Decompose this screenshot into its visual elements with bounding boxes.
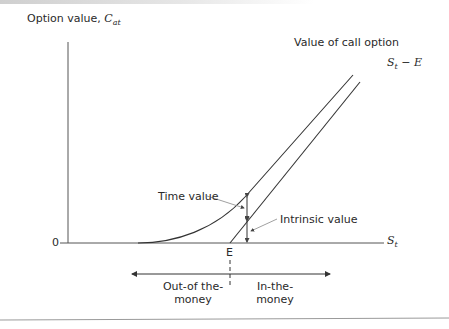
x-axis-label: St [387,234,398,249]
x-axis-subscript: t [395,240,398,249]
x-axis-symbol: S [387,234,395,247]
intrinsic-line-label: St − E [387,56,422,71]
intrinsic-line-rest: − E [398,56,422,69]
origin-label: 0 [52,236,59,249]
in-the-money-line1: In-the- [250,280,300,293]
intrinsic-value-label: Intrinsic value [280,213,357,226]
time-value-label: Time value [158,190,218,203]
call-value-label: Value of call option [294,36,399,49]
strike-label: E [226,246,233,259]
bottom-rule [0,318,449,320]
y-axis-symbol: C [104,12,112,25]
y-axis-subscript: at [113,18,121,27]
out-of-the-money-label: Out-of the- money [158,280,228,306]
intrinsic-line-symbol: S [387,56,395,69]
y-axis-label-text: Option value, [27,12,104,25]
in-the-money-label: In-the- money [250,280,300,306]
out-of-the-money-line2: money [158,293,228,306]
y-axis-label: Option value, Cat [27,12,121,27]
intrinsic-value-pointer [251,219,277,231]
out-of-the-money-line1: Out-of the- [158,280,228,293]
in-the-money-line2: money [250,293,300,306]
